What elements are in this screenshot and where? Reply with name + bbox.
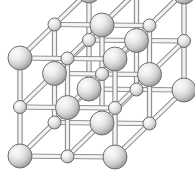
large-atom [77, 77, 101, 101]
large-atom [90, 111, 114, 135]
small-atom [48, 116, 61, 129]
large-atom [8, 46, 32, 70]
small-atom [48, 18, 61, 31]
small-atom [178, 35, 191, 48]
large-atom [138, 63, 162, 87]
large-atom [172, 78, 195, 102]
small-atom [83, 34, 96, 47]
large-atom [103, 145, 127, 169]
small-atom [61, 52, 74, 65]
large-atom [90, 13, 114, 37]
crystal-lattice-canvas [0, 0, 195, 177]
small-atom [61, 150, 74, 163]
large-atom [8, 144, 32, 168]
large-atom [56, 96, 80, 120]
crystal-lattice-figure [0, 0, 195, 177]
small-atom [143, 117, 156, 130]
large-atom [103, 47, 127, 71]
large-atom [43, 62, 67, 86]
small-atom [109, 102, 122, 115]
large-atom [125, 29, 149, 53]
small-atom [130, 83, 143, 96]
small-atom [14, 101, 27, 114]
small-atom [143, 19, 156, 32]
small-atom [96, 68, 109, 81]
